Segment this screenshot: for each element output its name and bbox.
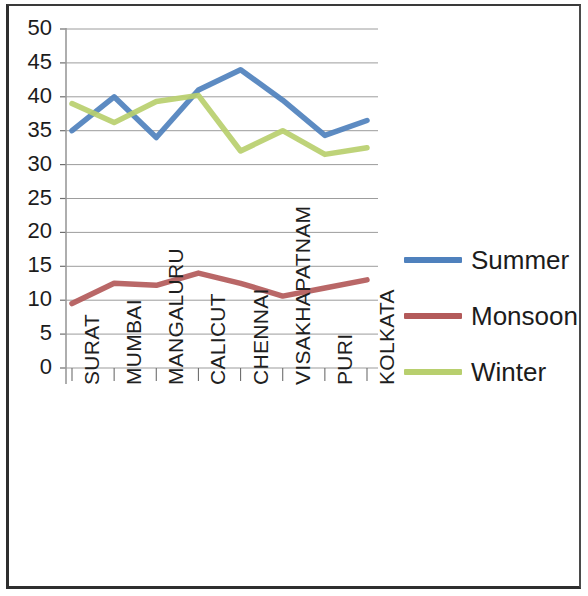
x-axis-category-label: SURAT — [80, 314, 104, 385]
x-axis-category-label: KOLKATA — [375, 289, 399, 385]
legend-label-winter: Winter — [471, 359, 546, 385]
legend-label-monsoon: Monsoon — [471, 303, 578, 329]
x-axis-category-label: CHENNAI — [249, 288, 273, 385]
legend-item-monsoon[interactable]: Monsoon — [404, 288, 584, 344]
legend-item-winter[interactable]: Winter — [404, 344, 584, 400]
legend-label-summer: Summer — [471, 247, 569, 273]
line-chart: 50454035302520151050 SURATMUMBAIMANGALUR… — [0, 0, 588, 596]
x-axis-category-label: CALICUT — [206, 293, 230, 385]
x-axis-category-labels: SURATMUMBAIMANGALURUCALICUTCHENNAIVISAKH… — [0, 0, 400, 200]
legend: Summer Monsoon Winter — [404, 232, 584, 400]
x-axis-category-label: VISAKHAPATNAM — [291, 206, 315, 385]
x-axis-category-label: MANGALURU — [164, 248, 188, 385]
legend-swatch-winter — [404, 369, 462, 375]
legend-item-summer[interactable]: Summer — [404, 232, 584, 288]
x-axis-category-label: MUMBAI — [122, 299, 146, 385]
x-axis-category-label: PURI — [333, 334, 357, 385]
legend-swatch-monsoon — [404, 313, 462, 319]
legend-swatch-summer — [404, 257, 462, 263]
